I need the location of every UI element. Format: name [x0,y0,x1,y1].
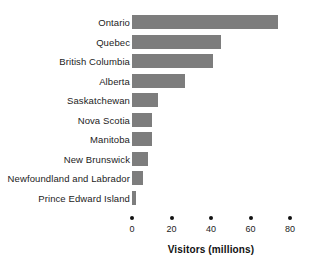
x-axis-tick: 60 [236,216,266,234]
bar-rect [132,35,221,49]
bar-rect [132,113,152,127]
bar-rect [132,132,152,146]
bar-row: Saskatchewan [0,93,315,107]
bar-category-label: Ontario [98,17,130,28]
tick-dot-icon [209,216,213,220]
bar-category-label: Saskatchewan [67,95,130,106]
bar-row: Nova Scotia [0,113,315,127]
bar-row: Newfoundland and Labrador [0,171,315,185]
bar-row: Quebec [0,35,315,49]
bar-row: Alberta [0,74,315,88]
bar-rect [132,171,143,185]
x-axis-tick-label: 0 [117,224,147,234]
x-axis: 0 20 40 60 80 Visitors (millions) [0,216,315,264]
bar-category-label: Newfoundland and Labrador [8,173,130,184]
x-axis-tick: 40 [196,216,226,234]
x-axis-title: Visitors (millions) [132,244,290,255]
x-axis-tick-label: 80 [275,224,305,234]
bar-rect [132,54,213,68]
bar-rect [132,74,185,88]
x-axis-tick: 20 [157,216,187,234]
bar-row: Prince Edward Island [0,191,315,205]
tick-dot-icon [170,216,174,220]
x-axis-tick: 80 [275,216,305,234]
tick-dot-icon [249,216,253,220]
bar-category-label: British Columbia [59,56,130,67]
tick-dot-icon [288,216,292,220]
bar-rect [132,15,278,29]
bar-rect [132,191,136,205]
x-axis-tick: 0 [117,216,147,234]
tick-dot-icon [130,216,134,220]
bar-category-label: Quebec [96,36,130,47]
bar-rect [132,152,148,166]
bar-chart-figure: Ontario Quebec British Columbia Alberta … [0,0,315,264]
bar-row: Ontario [0,15,315,29]
bar-category-label: Alberta [99,75,130,86]
x-axis-tick-label: 20 [157,224,187,234]
bar-category-label: New Brunswick [64,153,130,164]
bar-rect [132,93,158,107]
bar-row: British Columbia [0,54,315,68]
bar-row: Manitoba [0,132,315,146]
bar-category-label: Manitoba [90,134,130,145]
bar-category-label: Nova Scotia [78,114,130,125]
bar-category-label: Prince Edward Island [38,192,130,203]
x-axis-tick-label: 40 [196,224,226,234]
x-axis-tick-label: 60 [236,224,266,234]
bar-row: New Brunswick [0,152,315,166]
